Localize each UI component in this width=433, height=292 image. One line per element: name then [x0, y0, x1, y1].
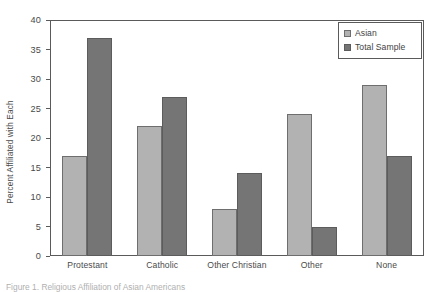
legend-label-asian: Asian: [355, 27, 377, 39]
y-tick-label: 30: [31, 73, 41, 85]
y-tick-label: 5: [36, 221, 41, 233]
y-axis-title: Percent Affiliated with Each: [6, 34, 20, 270]
y-tick-10: 10: [0, 191, 50, 203]
bar-total-sample-none: [387, 156, 412, 256]
x-tick-label-none: None: [349, 260, 424, 270]
bar-total-sample-other: [312, 227, 337, 257]
x-tick-label-other-christian: Other Christian: [200, 260, 275, 270]
x-tick-label-other: Other: [274, 260, 349, 270]
y-tick-label: 0: [36, 250, 41, 262]
bar-asian-protestant: [62, 156, 87, 256]
y-tick-label: 20: [31, 132, 41, 144]
y-tick-30: 30: [0, 73, 50, 85]
x-tick-label-protestant: Protestant: [50, 260, 125, 270]
bar-group: [212, 20, 262, 256]
bar-asian-catholic: [137, 126, 162, 256]
y-tick-5: 5: [0, 221, 50, 233]
y-tick-label: 10: [31, 191, 41, 203]
bar-group: [287, 20, 337, 256]
y-tick-label: 40: [31, 14, 41, 26]
bar-group: [62, 20, 112, 256]
legend-label-total-sample: Total Sample: [355, 41, 405, 53]
legend-item-asian: Asian: [344, 27, 416, 39]
bar-total-sample-other-christian: [237, 173, 262, 256]
bar-group: [137, 20, 187, 256]
bar-total-sample-catholic: [162, 97, 187, 256]
figure-caption: Figure 1. Religious Affiliation of Asian…: [6, 282, 430, 292]
figure: Percent Affiliated with Each 05101520253…: [0, 0, 433, 292]
legend-swatch-icon-total-sample: [344, 44, 351, 51]
y-tick-0: 0: [0, 250, 50, 262]
bar-asian-other-christian: [212, 209, 237, 256]
bar-asian-other: [287, 114, 312, 256]
y-tick-label: 25: [31, 103, 41, 115]
bar-total-sample-protestant: [87, 38, 112, 256]
y-tick-40: 40: [0, 14, 50, 26]
x-tick-label-catholic: Catholic: [125, 260, 200, 270]
legend: Asian Total Sample: [338, 22, 422, 59]
y-tick-15: 15: [0, 162, 50, 174]
bar-asian-none: [362, 85, 387, 256]
y-tick-label: 15: [31, 162, 41, 174]
y-tick-20: 20: [0, 132, 50, 144]
legend-item-total-sample: Total Sample: [344, 41, 416, 53]
y-tick-35: 35: [0, 44, 50, 56]
y-tick-label: 35: [31, 44, 41, 56]
y-tick-25: 25: [0, 103, 50, 115]
legend-swatch-icon-asian: [344, 30, 351, 37]
